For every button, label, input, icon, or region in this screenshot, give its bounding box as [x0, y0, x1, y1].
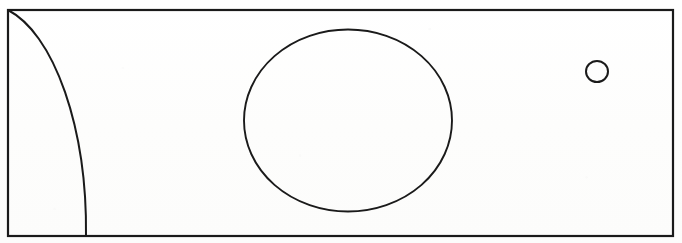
figure-page	[0, 0, 682, 243]
figure-background	[0, 0, 682, 243]
figure-canvas	[0, 0, 682, 243]
